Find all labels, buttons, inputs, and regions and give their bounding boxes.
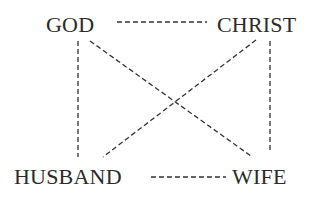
edge-christ-husband [103,40,256,157]
node-christ: CHRIST [217,14,296,36]
node-god: GOD [46,14,94,36]
edge-god-wife [90,41,251,156]
node-wife: WIFE [232,166,287,188]
node-husband: HUSBAND [14,166,122,188]
